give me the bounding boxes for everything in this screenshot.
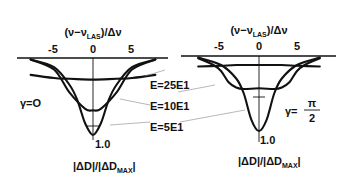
leader-line	[110, 122, 150, 125]
energy-label: E=10E1	[150, 100, 189, 112]
x-tick-label: -5	[214, 40, 224, 52]
energy-labels: E=25E1 E=10E1 E=5E1	[110, 70, 245, 133]
y-tick-label: 1.0	[95, 138, 110, 150]
x-tick-label: 5	[294, 40, 300, 52]
figure: (ν−νLAS)/Δν -5 0 5 1.0 γ=O |ΔD|/|ΔDMAX| …	[0, 0, 348, 195]
leader-line	[180, 110, 245, 122]
gamma-fraction-numerator: π	[308, 97, 317, 109]
gamma-label-left: γ=O	[20, 97, 42, 109]
y-axis-label-left: |ΔD|/|ΔDMAX|	[73, 160, 136, 174]
panel-left: (ν−νLAS)/Δν -5 0 5 1.0 γ=O |ΔD|/|ΔDMAX|	[17, 26, 168, 174]
y-tick-label: 1.0	[260, 134, 275, 146]
x-tick-label: 0	[90, 43, 96, 55]
x-tick-label: 5	[128, 43, 134, 55]
x-axis-label-right: (ν−νLAS)/Δν	[230, 24, 287, 38]
y-axis-label-right: |ΔD|/|ΔDMAX|	[238, 155, 301, 169]
x-axis-label-left: (ν−νLAS)/Δν	[64, 26, 121, 40]
gamma-label-right: γ=	[285, 105, 298, 117]
x-tick-label: 0	[256, 40, 262, 52]
x-tick-label: -5	[48, 43, 58, 55]
energy-label: E=5E1	[150, 121, 183, 133]
gamma-fraction-denominator: 2	[309, 112, 315, 124]
leader-line	[120, 99, 150, 105]
panel-right: (ν−νLAS)/Δν -5 0 5 1.0 γ= π 2 |ΔD|/|ΔDMA…	[181, 24, 336, 169]
energy-label: E=25E1	[150, 79, 189, 91]
